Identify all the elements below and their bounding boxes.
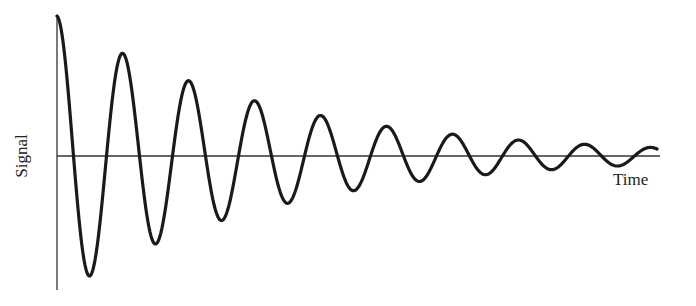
x-axis-label: Time [613, 170, 648, 190]
damped-oscillation-chart [0, 0, 696, 306]
signal-curve [57, 16, 657, 276]
y-axis-label: Signal [12, 134, 32, 177]
